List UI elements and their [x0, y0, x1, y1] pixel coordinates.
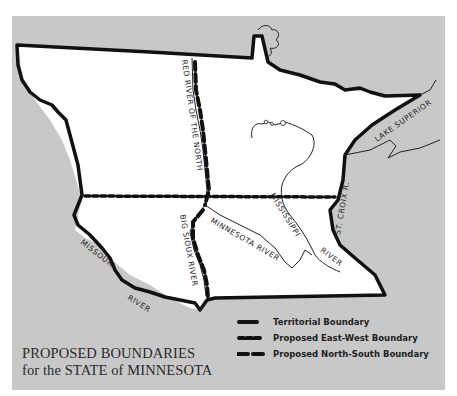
map-title: PROPOSED BOUNDARIES for the STATE of MIN…	[22, 345, 212, 379]
title-line-2: for the STATE of MINNESOTA	[22, 362, 212, 379]
legend-label: Proposed East-West Boundary	[273, 333, 418, 343]
legend-item-north-south: Proposed North-South Boundary	[237, 346, 429, 362]
title-line-1: PROPOSED BOUNDARIES	[22, 345, 212, 362]
legend-label: Proposed North-South Boundary	[273, 349, 429, 359]
map-legend: Territorial Boundary Proposed East-West …	[237, 314, 429, 362]
legend-item-east-west: Proposed East-West Boundary	[237, 330, 429, 346]
east-west-boundary	[85, 196, 335, 197]
legend-label: Territorial Boundary	[273, 317, 369, 327]
dotted-line-swatch-icon	[237, 335, 267, 341]
dashed-line-swatch-icon	[237, 351, 267, 357]
solid-line-swatch-icon	[237, 319, 267, 325]
legend-item-territorial: Territorial Boundary	[237, 314, 429, 330]
